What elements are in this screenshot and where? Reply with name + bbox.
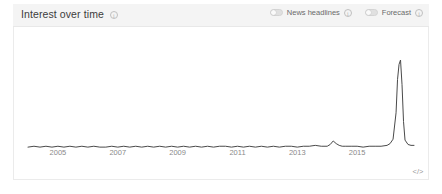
x-tick-label-2009: 2009 [169, 148, 186, 158]
title-group: Interest over time i [21, 8, 118, 21]
x-tick-label-2011: 2011 [229, 148, 245, 158]
x-tick-label-2015: 2015 [349, 148, 366, 158]
forecast-info-icon[interactable]: i [415, 9, 423, 17]
x-axis: 200520072009201120132015 [14, 148, 430, 162]
x-tick-label-2007: 2007 [109, 148, 126, 158]
news-headlines-toggle[interactable] [270, 9, 283, 16]
forecast-toggle-group[interactable]: Forecast i [365, 8, 423, 17]
info-icon[interactable]: i [110, 11, 118, 19]
card-header: Interest over time i News headlines i Fo… [13, 4, 429, 27]
page-title: Interest over time [21, 8, 104, 21]
news-headlines-toggle-group[interactable]: News headlines i [270, 8, 352, 17]
news-headlines-label: News headlines [287, 8, 340, 17]
news-headlines-info-icon[interactable]: i [344, 9, 352, 17]
x-tick-label-2005: 2005 [50, 148, 67, 158]
embed-icon[interactable]: </> [411, 166, 425, 178]
chart-plot-area[interactable]: 200520072009201120132015 </> [13, 27, 429, 180]
series-line-interest [28, 60, 414, 147]
forecast-label: Forecast [382, 8, 411, 17]
interest-over-time-card: Interest over time i News headlines i Fo… [13, 4, 429, 180]
x-tick-label-2013: 2013 [289, 148, 306, 158]
header-controls: News headlines i Forecast i [270, 8, 423, 17]
forecast-toggle[interactable] [365, 9, 378, 16]
